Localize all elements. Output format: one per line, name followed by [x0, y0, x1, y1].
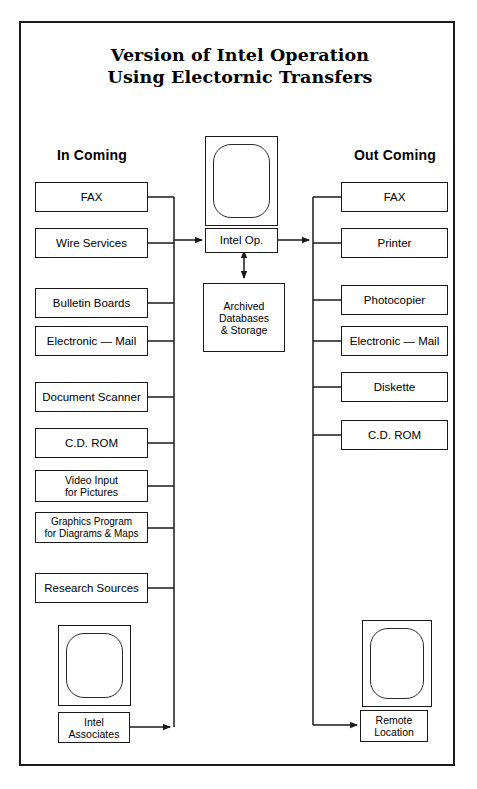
monitor-screen: [213, 144, 270, 218]
outgoing-node-printer-label: Printer: [378, 237, 412, 250]
center-node-intel-op-label: Intel Op.: [220, 234, 263, 247]
outgoing-node-photocopier[interactable]: Photocopier: [341, 285, 448, 315]
page-title-line-1: Version of Intel Operation: [60, 44, 420, 66]
outgoing-node-diskette[interactable]: Diskette: [341, 372, 448, 402]
outgoing-node-electronic-mail-label: Electronic — Mail: [350, 335, 439, 348]
outgoing-node-fax-label: FAX: [384, 191, 406, 204]
incoming-node-bulletin-boards[interactable]: Bulletin Boards: [35, 288, 148, 318]
page-title-line-2: Using Electornic Transfers: [60, 66, 420, 88]
center-node-intel-op[interactable]: Intel Op.: [205, 228, 278, 253]
incoming-node-document-scanner-label: Document Scanner: [42, 391, 140, 404]
incoming-node-video-input-label: Video Input for Pictures: [65, 474, 118, 498]
incoming-node-cd-rom-label: C.D. ROM: [65, 437, 118, 450]
incoming-node-wire-services-label: Wire Services: [56, 237, 127, 250]
outgoing-node-remote-location-label: Remote Location: [374, 714, 414, 738]
monitor-screen: [370, 628, 424, 699]
incoming-node-graphics-program-label: Graphics Program for Diagrams & Maps: [45, 516, 139, 539]
outgoing-node-electronic-mail[interactable]: Electronic — Mail: [341, 326, 448, 356]
outgoing-node-remote-location[interactable]: Remote Location: [360, 710, 428, 742]
center-node-archived-databases[interactable]: Archived Databases & Storage: [203, 283, 285, 352]
incoming-node-document-scanner[interactable]: Document Scanner: [35, 382, 148, 412]
page-title: Version of Intel Operation Using Elector…: [60, 44, 420, 88]
incoming-node-intel-associates-label: Intel Associates: [69, 716, 120, 740]
diagram-page: Version of Intel Operation Using Elector…: [0, 0, 477, 789]
incoming-node-video-input[interactable]: Video Input for Pictures: [35, 470, 148, 502]
center-node-archived-databases-label: Archived Databases & Storage: [219, 300, 269, 336]
monitor-icon-intel-operation: [205, 136, 278, 226]
monitor-icon-intel-associates: [58, 625, 131, 706]
incoming-node-research-sources-label: Research Sources: [44, 582, 139, 595]
incoming-node-bulletin-boards-label: Bulletin Boards: [53, 297, 130, 310]
incoming-node-wire-services[interactable]: Wire Services: [35, 228, 148, 258]
incoming-node-intel-associates[interactable]: Intel Associates: [58, 712, 130, 743]
outgoing-node-photocopier-label: Photocopier: [364, 294, 425, 307]
outgoing-node-printer[interactable]: Printer: [341, 228, 448, 258]
incoming-node-graphics-program[interactable]: Graphics Program for Diagrams & Maps: [35, 512, 148, 543]
incoming-node-fax-label: FAX: [81, 191, 103, 204]
outgoing-node-fax[interactable]: FAX: [341, 182, 448, 212]
incoming-column-heading: In Coming: [35, 147, 149, 163]
incoming-node-cd-rom[interactable]: C.D. ROM: [35, 428, 148, 458]
incoming-node-electronic-mail-label: Electronic — Mail: [47, 335, 136, 348]
incoming-node-fax[interactable]: FAX: [35, 182, 148, 212]
incoming-node-research-sources[interactable]: Research Sources: [35, 573, 148, 603]
outgoing-node-cd-rom[interactable]: C.D. ROM: [341, 420, 448, 450]
outgoing-node-cd-rom-label: C.D. ROM: [368, 429, 421, 442]
outgoing-node-diskette-label: Diskette: [374, 381, 416, 394]
monitor-screen: [66, 633, 123, 698]
monitor-icon-remote-location: [362, 620, 432, 707]
outgoing-column-heading: Out Coming: [341, 147, 449, 163]
incoming-node-electronic-mail[interactable]: Electronic — Mail: [35, 326, 148, 356]
